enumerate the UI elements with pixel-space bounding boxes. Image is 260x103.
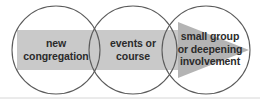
process-diagram: new congregation events or course small … (0, 0, 260, 103)
right-arrow-icon (178, 22, 249, 78)
gray-band (17, 30, 196, 70)
diagram-canvas (0, 0, 260, 103)
